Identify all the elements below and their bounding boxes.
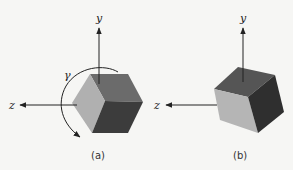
z-axis-label-a: z [8, 99, 15, 112]
caption-a: (a) [91, 150, 105, 161]
panel-a: y z γ (a) [8, 12, 143, 161]
caption-b: (b) [233, 150, 247, 161]
y-axis-label-b: y [239, 12, 247, 25]
gamma-label: γ [64, 69, 71, 82]
y-axis-label-a: y [95, 12, 103, 25]
rotation-diagram: y z γ (a) y z (b) [0, 0, 293, 170]
cube-b [214, 67, 284, 133]
panel-b: y z (b) [153, 12, 284, 161]
z-axis-label-b: z [153, 99, 160, 112]
cube-a [72, 74, 143, 133]
